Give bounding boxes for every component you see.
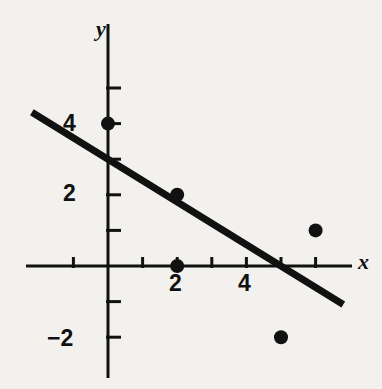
y-tick-label-negative-2: −2: [47, 327, 73, 350]
x-axis-label: x: [358, 251, 369, 273]
x-tick-label-2: 2: [169, 272, 182, 295]
data-point: [274, 330, 288, 344]
scatter-plot-figure: 4 2 −2 2 4 x y: [0, 0, 382, 389]
y-tick-label-4: 4: [63, 112, 76, 135]
data-point: [101, 117, 115, 131]
data-point: [170, 188, 184, 202]
data-point: [309, 223, 323, 237]
x-tick-label-4: 4: [238, 272, 251, 295]
y-tick-label-2: 2: [63, 182, 76, 205]
y-axis-label: y: [96, 18, 106, 40]
